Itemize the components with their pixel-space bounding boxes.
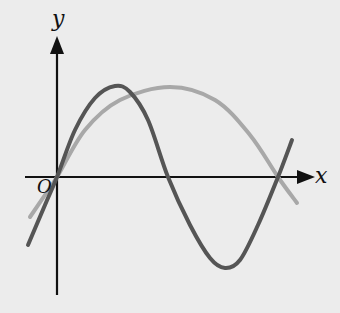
y-axis-arrow-icon: [50, 36, 64, 54]
x-axis-label: x: [315, 163, 327, 188]
x-axis-arrow-icon: [297, 170, 315, 184]
function-graph: [0, 0, 340, 313]
origin-label: O: [37, 176, 52, 197]
y-axis-label: y: [52, 6, 64, 31]
light-curve: [30, 87, 297, 217]
